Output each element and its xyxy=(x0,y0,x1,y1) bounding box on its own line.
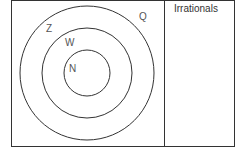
label-integers: Z xyxy=(46,24,52,34)
venn-diagram xyxy=(0,0,236,151)
circle-whole xyxy=(42,28,132,118)
label-whole: W xyxy=(65,38,74,48)
label-natural: N xyxy=(69,64,76,74)
label-irrationals: Irrationals xyxy=(174,4,218,14)
circle-integers xyxy=(20,6,154,140)
label-rationals: Q xyxy=(139,12,147,22)
